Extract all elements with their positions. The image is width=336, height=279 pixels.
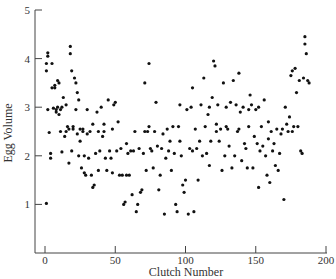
data-point: [84, 174, 87, 177]
data-point: [205, 152, 208, 155]
data-point: [111, 128, 114, 131]
data-point: [254, 108, 257, 111]
data-point: [268, 181, 271, 184]
data-point: [46, 55, 49, 58]
data-point: [87, 157, 90, 160]
data-point: [270, 130, 273, 133]
data-point: [211, 96, 214, 99]
data-point: [199, 103, 202, 106]
data-point: [235, 103, 238, 106]
data-point: [239, 111, 242, 114]
data-point: [150, 149, 153, 152]
data-point: [267, 137, 270, 140]
data-point: [94, 152, 97, 155]
data-point: [140, 188, 143, 191]
data-point: [174, 203, 177, 206]
data-point: [104, 157, 107, 160]
data-point: [168, 140, 171, 143]
data-point: [152, 166, 155, 169]
data-point: [192, 210, 195, 213]
data-point: [77, 98, 80, 101]
data-point: [107, 98, 110, 101]
data-point: [132, 149, 135, 152]
data-point: [191, 86, 194, 89]
data-point: [46, 108, 49, 111]
data-point: [72, 128, 75, 131]
data-point: [97, 169, 100, 172]
data-point: [185, 108, 188, 111]
data-point: [81, 130, 84, 133]
data-point: [279, 132, 282, 135]
data-point: [115, 149, 118, 152]
data-point: [60, 150, 63, 153]
data-point: [296, 125, 299, 128]
data-point: [154, 101, 157, 104]
data-point: [90, 174, 93, 177]
data-point: [70, 69, 73, 72]
data-point: [136, 203, 139, 206]
x-ticks: 050100150200: [42, 246, 335, 266]
data-point: [197, 179, 200, 182]
data-point: [251, 166, 254, 169]
data-point: [48, 131, 51, 134]
data-point: [212, 59, 215, 62]
data-point: [91, 123, 94, 126]
data-point: [247, 125, 250, 128]
data-point: [53, 84, 56, 87]
x-tick-label: 50: [110, 254, 122, 266]
data-point: [188, 147, 191, 150]
data-point: [69, 45, 72, 48]
data-point: [208, 164, 211, 167]
data-point: [202, 76, 205, 79]
data-point: [163, 213, 166, 216]
data-point: [261, 145, 264, 148]
data-point: [230, 166, 233, 169]
data-point: [216, 103, 219, 106]
data-point: [80, 166, 83, 169]
data-point: [124, 200, 127, 203]
data-point: [242, 106, 245, 109]
data-point: [226, 128, 229, 131]
data-point: [285, 123, 288, 126]
data-point: [101, 135, 104, 138]
data-point: [191, 149, 194, 152]
data-point: [131, 193, 134, 196]
y-tick-label: 4: [25, 53, 31, 65]
y-tick-label: 3: [25, 101, 31, 113]
data-point: [67, 128, 70, 131]
data-point: [161, 132, 164, 135]
data-point: [208, 106, 211, 109]
data-point: [166, 128, 169, 131]
data-point: [181, 183, 184, 186]
data-point: [153, 130, 156, 133]
data-point: [105, 169, 108, 172]
data-point: [257, 106, 260, 109]
data-point: [70, 149, 73, 152]
data-point: [302, 76, 305, 79]
data-point: [108, 149, 111, 152]
data-point: [69, 52, 72, 55]
data-point: [294, 67, 297, 70]
data-point: [129, 149, 132, 152]
data-point: [95, 111, 98, 114]
data-point: [57, 113, 60, 116]
data-point: [49, 152, 52, 155]
data-point: [167, 149, 170, 152]
data-point: [119, 147, 122, 150]
data-point: [45, 202, 48, 205]
x-axis-title: Clutch Number: [149, 265, 223, 279]
data-point: [263, 98, 266, 101]
data-point: [86, 108, 89, 111]
data-point: [86, 132, 89, 135]
data-point: [253, 135, 256, 138]
data-point: [206, 113, 209, 116]
data-point: [183, 191, 186, 194]
data-point: [173, 152, 176, 155]
data-point: [187, 213, 190, 216]
data-point: [298, 79, 301, 82]
data-point: [257, 186, 260, 189]
data-point: [63, 135, 66, 138]
data-point: [50, 62, 53, 65]
data-point: [83, 154, 86, 157]
data-point: [265, 174, 268, 177]
